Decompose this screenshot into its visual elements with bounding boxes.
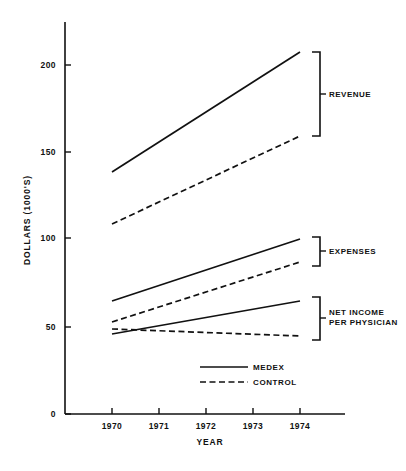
- chart-canvas: [0, 0, 406, 471]
- x-axis-title: YEAR: [160, 437, 260, 447]
- bracket-revenue: [312, 52, 320, 136]
- series-net-income-control: [112, 329, 300, 336]
- bracket-label-expenses: EXPENSES: [329, 247, 376, 257]
- x-tick-label-1970: 1970: [92, 421, 132, 431]
- y-tick-label-50: 50: [10, 322, 56, 332]
- bracket-label-revenue: REVENUE: [329, 90, 371, 100]
- legend-label-control: CONTROL: [253, 378, 297, 387]
- bracket-label-net-income-line2: PER PHYSICIAN: [329, 318, 398, 328]
- y-tick-label-200: 200: [10, 60, 56, 70]
- y-tick-label-150: 150: [10, 147, 56, 157]
- x-tick-label-1971: 1971: [139, 421, 179, 431]
- series-revenue-medex: [112, 52, 300, 172]
- chart-figure: 0 50 100 150 200 1970 1971 1972 1973 197…: [0, 0, 406, 471]
- series-net-income-medex: [112, 301, 300, 334]
- y-axis-title: DOLLARS (1000'S): [22, 145, 32, 295]
- bracket-expenses: [312, 237, 320, 266]
- bracket-net-income: [312, 297, 320, 340]
- x-tick-label-1973: 1973: [233, 421, 273, 431]
- x-tick-label-1972: 1972: [186, 421, 226, 431]
- series-revenue-control: [112, 136, 300, 224]
- y-tick-label-0: 0: [10, 409, 56, 419]
- x-tick-label-1974: 1974: [280, 421, 320, 431]
- legend-label-medex: MEDEX: [253, 363, 284, 372]
- y-axis-ticks: [65, 65, 71, 414]
- y-tick-label-100: 100: [10, 233, 56, 243]
- x-axis-ticks: [112, 408, 300, 414]
- bracket-label-net-income-line1: NET INCOME: [329, 308, 384, 318]
